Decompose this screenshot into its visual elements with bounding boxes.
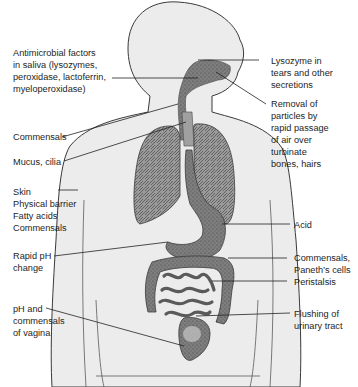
label-rapid-ph-change: Rapid pH change	[13, 250, 51, 274]
label-lysozyme-tears: Lysozyme in tears and other secretions	[271, 55, 333, 91]
trachea	[182, 112, 194, 146]
label-acid: Acid	[294, 219, 312, 231]
label-saliva: Antimicrobial factors in saliva (lysozym…	[13, 47, 106, 95]
label-peristalsis: Peristalsis	[294, 276, 336, 288]
label-mucus-cilia: Mucus, cilia	[13, 156, 61, 168]
innate-defense-diagram: Antimicrobial factors in saliva (lysozym…	[0, 0, 358, 387]
label-urinary-flushing: Flushing of urinary tract	[294, 308, 343, 332]
label-skin: Skin Physical barrier Fatty acids Commen…	[13, 186, 76, 234]
label-vagina: pH and commensals of vagina	[13, 303, 65, 339]
label-paneth-cells: Commensals, Paneth’s cells	[294, 252, 351, 276]
label-commensals-throat: Commensals	[13, 131, 67, 143]
label-nasal-removal: Removal of particles by rapid passage of…	[271, 98, 329, 170]
